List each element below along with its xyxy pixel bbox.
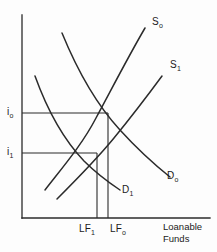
x-axis-title: Loanable Funds: [163, 221, 202, 245]
curve-label-d1: D1: [122, 184, 133, 197]
supply-curve-s0: [45, 28, 145, 190]
y-tick-label-i1: i1: [7, 146, 13, 159]
diagram-canvas: [0, 0, 217, 252]
demand-curve-d1: [35, 76, 120, 190]
demand-curves-group: [35, 33, 170, 190]
curve-label-s1: S1: [170, 59, 181, 72]
x-axis-title-line2: Funds: [163, 233, 202, 245]
y-tick-label-i0: io: [7, 106, 13, 119]
x-axis-title-line1: Loanable: [163, 221, 202, 233]
x-tick-label-lf1: LF1: [79, 223, 95, 236]
x-tick-label-lf0: LFo: [110, 223, 126, 236]
loanable-funds-diagram: So S1 Do D1 io i1 LF1 LFo Loanable Funds: [0, 0, 217, 252]
curve-label-s0: So: [152, 16, 163, 29]
supply-curve-s1: [57, 76, 162, 199]
curve-label-d0: Do: [167, 170, 178, 183]
